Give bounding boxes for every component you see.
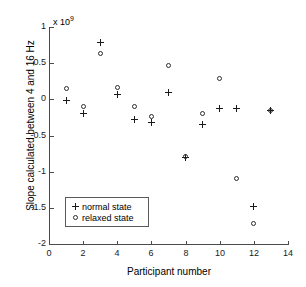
circle-marker-icon xyxy=(70,213,82,222)
data-point-relaxed-state xyxy=(183,154,188,159)
data-point-relaxed-state xyxy=(132,104,137,109)
data-point-relaxed-state xyxy=(200,111,205,116)
legend-item-relaxed-state: relaxed state xyxy=(70,212,144,223)
data-point-relaxed-state xyxy=(166,63,171,68)
data-point-normal-state xyxy=(182,154,189,161)
y-axis-tick-label: -2 xyxy=(20,239,46,248)
y-axis-tick xyxy=(50,244,54,245)
data-point-relaxed-state xyxy=(251,221,256,226)
legend-item-normal-state: normal state xyxy=(70,201,144,212)
data-point-relaxed-state xyxy=(234,176,239,181)
x-axis-tick xyxy=(117,241,118,245)
data-point-normal-state xyxy=(80,110,87,117)
data-point-relaxed-state xyxy=(217,76,222,81)
data-point-relaxed-state xyxy=(149,114,154,119)
y-axis-tick xyxy=(50,63,54,64)
legend-label-relaxed-state: relaxed state xyxy=(82,213,134,223)
data-point-normal-state xyxy=(131,116,138,123)
data-point-normal-state xyxy=(114,91,121,98)
x-axis-line xyxy=(49,244,289,245)
data-point-relaxed-state xyxy=(268,108,273,113)
x-axis-tick xyxy=(220,241,221,245)
y-axis-tick xyxy=(50,27,54,28)
x-axis-tick-label: 4 xyxy=(107,249,127,258)
x-axis-tick xyxy=(186,241,187,245)
data-point-normal-state xyxy=(199,121,206,128)
data-point-normal-state xyxy=(165,89,172,96)
x-axis-tick-label: 6 xyxy=(141,249,161,258)
y-axis-exponent-label: x 109 xyxy=(53,14,74,27)
data-point-normal-state xyxy=(250,203,257,210)
data-point-normal-state xyxy=(148,119,155,126)
y-axis-tick xyxy=(50,136,54,137)
scatter-chart-figure: x 109 10.50-0.5-1-1.5-202468101214 Parti… xyxy=(0,0,306,287)
data-point-normal-state xyxy=(216,105,223,112)
data-point-normal-state xyxy=(267,107,274,114)
plus-marker-icon xyxy=(70,202,82,211)
x-axis-title: Participant number xyxy=(49,266,289,277)
legend-label-normal-state: normal state xyxy=(82,202,132,212)
data-point-relaxed-state xyxy=(115,85,120,90)
x-axis-tick-label: 10 xyxy=(210,249,230,258)
y-axis-tick xyxy=(50,172,54,173)
data-point-relaxed-state xyxy=(98,51,103,56)
data-point-relaxed-state xyxy=(81,104,86,109)
x-axis-tick-label: 0 xyxy=(39,249,59,258)
y-axis-title: Slope calculated between 4 and 16 Hz xyxy=(25,16,36,236)
data-point-normal-state xyxy=(63,97,70,104)
chart-legend: normal state relaxed state xyxy=(65,197,149,227)
x-axis-tick xyxy=(151,241,152,245)
x-axis-tick-label: 2 xyxy=(73,249,93,258)
exponent-base: x 10 xyxy=(53,17,70,27)
x-axis-tick-label: 12 xyxy=(244,249,264,258)
x-axis-tick xyxy=(49,241,50,245)
x-axis-tick xyxy=(254,241,255,245)
data-point-normal-state xyxy=(233,105,240,112)
data-point-relaxed-state xyxy=(64,86,69,91)
data-point-normal-state xyxy=(97,39,104,46)
x-axis-tick-label: 8 xyxy=(176,249,196,258)
exponent-power: 9 xyxy=(70,15,74,22)
x-axis-tick xyxy=(288,241,289,245)
y-axis-tick xyxy=(50,99,54,100)
x-axis-tick-label: 14 xyxy=(278,249,298,258)
x-axis-tick xyxy=(83,241,84,245)
y-axis-tick xyxy=(50,208,54,209)
